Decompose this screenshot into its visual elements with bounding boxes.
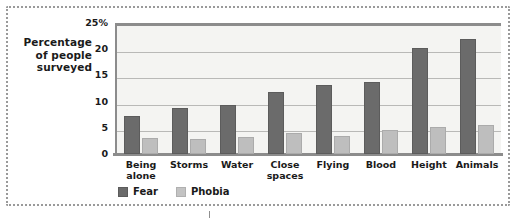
bar-group: [213, 23, 261, 154]
bar-fear: [364, 82, 380, 154]
bar-fear: [124, 116, 140, 154]
bar-fear: [412, 48, 428, 154]
y-tick-label: 15: [72, 69, 108, 80]
bar-phobia: [478, 125, 494, 154]
bar-phobia: [238, 137, 254, 154]
bar-group: [357, 23, 405, 154]
bar-groups: [117, 23, 501, 154]
bar-fear: [460, 39, 476, 154]
bar-phobia: [334, 136, 350, 154]
legend-label: Phobia: [191, 186, 230, 197]
x-tick-label: Height: [405, 159, 453, 181]
x-tick-label: Water: [213, 159, 261, 181]
y-tick-label: 25%: [72, 17, 108, 28]
y-tick-label: 20: [72, 43, 108, 54]
bar-group: [261, 23, 309, 154]
bar-group: [117, 23, 165, 154]
y-tick-label: 0: [72, 148, 108, 159]
bar-phobia: [190, 139, 206, 154]
bar-fear: [316, 85, 332, 154]
bar-phobia: [286, 133, 302, 154]
x-tick-label: Storms: [165, 159, 213, 181]
x-tick-label: Animals: [453, 159, 501, 181]
legend-swatch-icon: [176, 187, 186, 197]
bar-phobia: [142, 138, 158, 154]
x-axis-tick-labels: Being aloneStormsWaterClose spacesFlying…: [117, 159, 501, 181]
bar-group: [405, 23, 453, 154]
y-axis-title: Percentage of people surveyed: [14, 36, 92, 74]
bar-group: [165, 23, 213, 154]
y-tick-label: 5: [72, 122, 108, 133]
x-tick-label: Flying: [309, 159, 357, 181]
x-tick-label: Close spaces: [261, 159, 309, 181]
bar-fear: [220, 105, 236, 154]
page-tick-mark: [209, 211, 210, 218]
bar-phobia: [382, 130, 398, 154]
bar-group: [309, 23, 357, 154]
legend-label: Fear: [133, 186, 158, 197]
bar-phobia: [430, 127, 446, 154]
legend-swatch-icon: [118, 187, 128, 197]
y-tick-label: 10: [72, 96, 108, 107]
bar-fear: [268, 92, 284, 154]
bar-group: [453, 23, 501, 154]
legend-item-phobia: Phobia: [176, 186, 230, 197]
chart-figure: Percentage of people surveyed 0510152025…: [0, 0, 518, 218]
bar-fear: [172, 108, 188, 154]
x-tick-label: Being alone: [117, 159, 165, 181]
legend-item-fear: Fear: [118, 186, 158, 197]
chart-legend: FearPhobia: [118, 186, 230, 197]
x-tick-label: Blood: [357, 159, 405, 181]
